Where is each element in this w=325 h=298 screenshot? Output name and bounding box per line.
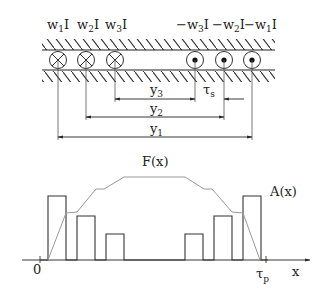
label-neg-w3I: −w3I	[176, 17, 209, 34]
slot-structure	[42, 39, 275, 82]
svg-text:y3: y3	[149, 82, 163, 99]
upper-hatch	[42, 39, 275, 50]
bars-label-A: A(x)	[269, 184, 297, 199]
label-w1I: w1I	[47, 17, 69, 34]
step-function-A	[40, 196, 268, 260]
conductor-labels: w1I w2I w3I −w3I −w2I −w1I	[47, 17, 277, 34]
label-neg-w1I: −w1I	[244, 17, 277, 34]
label-neg-w2I: −w2I	[212, 17, 245, 34]
lower-hatch	[42, 71, 275, 82]
label-w2I: w2I	[77, 17, 99, 34]
label-w3I: w3I	[105, 17, 127, 34]
tau-p-label: τp	[256, 266, 269, 284]
dimension-y3: y3	[115, 82, 195, 99]
svg-text:τs: τs	[203, 82, 215, 99]
dimension-tau-s: τs	[203, 82, 244, 99]
x-axis-label: x	[292, 264, 300, 279]
svg-text:y1: y1	[149, 121, 163, 138]
winding-diagram: w1I w2I w3I −w3I −w2I −w1I	[0, 0, 325, 298]
curve-F	[48, 177, 260, 260]
svg-text:y2: y2	[149, 101, 163, 118]
dimension-y2: y2	[86, 101, 224, 118]
dimension-y1: y1	[58, 121, 252, 138]
origin-label: 0	[33, 262, 41, 277]
curve-label-F: F(x)	[142, 154, 169, 169]
graph: F(x) A(x) 0 τp x	[22, 154, 310, 284]
